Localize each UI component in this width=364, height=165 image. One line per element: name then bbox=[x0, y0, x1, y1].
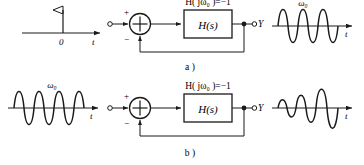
row-a-output-terminal bbox=[252, 22, 257, 27]
row-b-transfer-function-block: H(s) bbox=[184, 94, 232, 122]
row-a-output-axis-label: t bbox=[345, 29, 348, 39]
row-b-output-growing-sinusoid-plot: t bbox=[272, 89, 352, 128]
row-b-input-axis-label: t bbox=[90, 111, 93, 121]
row-b-sum-plus-label: + bbox=[124, 91, 129, 101]
row-a-transfer-function-block: H(s) bbox=[184, 10, 232, 38]
row-a-output-terminal-label: Y bbox=[258, 19, 265, 29]
row-a-input-axis-label: t bbox=[92, 37, 95, 47]
row-a-sum-minus-label: − bbox=[124, 34, 129, 44]
row-a-summing-junction: + − bbox=[124, 7, 151, 44]
row-b: ω₀ t + − H(s) H( jω₀ )=−1 Y bbox=[8, 80, 352, 159]
row-b-output-waveform bbox=[278, 89, 338, 128]
row-a-origin-label: 0 bbox=[59, 37, 64, 47]
row-b-output-terminal bbox=[252, 106, 257, 111]
row-a-sum-plus-label: + bbox=[124, 7, 129, 17]
figure-canvas: 0 t + − H(s) H( jω₀ )=−1 Y bbox=[0, 0, 364, 165]
feedback-instability-figure: 0 t + − H(s) H( jω₀ )=−1 Y bbox=[0, 0, 364, 165]
row-a-input-impulse-plot: 0 t bbox=[22, 10, 100, 47]
row-b-output-terminal-label: Y bbox=[258, 103, 265, 113]
row-b-sum-minus-label: − bbox=[124, 118, 129, 128]
row-b-input-terminal bbox=[108, 106, 113, 111]
row-a-condition-label: H( jω₀ )=−1 bbox=[185, 0, 231, 8]
row-b-input-freq-label: ω₀ bbox=[47, 80, 56, 90]
row-b-condition-label: H( jω₀ )=−1 bbox=[185, 81, 231, 92]
row-a: 0 t + − H(s) H( jω₀ )=−1 Y bbox=[22, 0, 352, 73]
row-b-caption: b ) bbox=[185, 148, 195, 159]
row-b-output-axis-label: t bbox=[345, 111, 348, 121]
row-b-block-label: H(s) bbox=[197, 103, 218, 116]
row-a-output-freq-label: ω₀ bbox=[298, 0, 307, 8]
row-a-caption: a ) bbox=[185, 62, 195, 73]
row-a-input-terminal bbox=[108, 22, 113, 27]
row-b-summing-junction: + − bbox=[124, 91, 151, 128]
row-a-block-label: H(s) bbox=[197, 19, 218, 32]
row-b-input-sinusoid-plot: ω₀ t bbox=[8, 80, 98, 125]
row-a-output-sinusoid-plot: ω₀ t bbox=[272, 0, 352, 43]
